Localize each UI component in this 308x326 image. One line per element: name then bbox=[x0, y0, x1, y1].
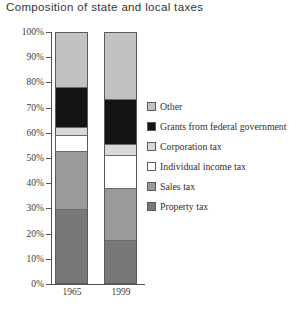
legend-item: Corporation tax bbox=[147, 136, 305, 156]
y-axis-tick-mark bbox=[46, 234, 51, 235]
legend-item: Property tax bbox=[147, 196, 305, 216]
y-axis-tick-label: 70% bbox=[27, 103, 44, 113]
y-axis-tick-mark bbox=[46, 133, 51, 134]
y-axis-tick-label: 0% bbox=[31, 279, 44, 289]
bar-segment bbox=[56, 33, 87, 87]
y-axis-tick-mark bbox=[46, 284, 51, 285]
y-axis-tick-label: 40% bbox=[27, 178, 44, 188]
y-axis-tick-label: 80% bbox=[27, 77, 44, 87]
y-axis-tick-label: 20% bbox=[27, 229, 44, 239]
y-axis-tick-label: 100% bbox=[22, 27, 44, 37]
y-axis-tick-label: 90% bbox=[27, 52, 44, 62]
legend-item-label: Sales tax bbox=[160, 181, 195, 192]
x-axis-label-1965: 1965 bbox=[50, 287, 94, 297]
legend-swatch-icon bbox=[147, 142, 156, 151]
legend-item: Grants from federal government bbox=[147, 116, 305, 136]
y-axis-tick-mark bbox=[46, 259, 51, 260]
chart-title: Composition of state and local taxes bbox=[6, 1, 203, 13]
bar-segment bbox=[56, 209, 87, 284]
stacked-bar-1965 bbox=[55, 32, 88, 284]
y-axis-line bbox=[51, 32, 52, 284]
legend-swatch-icon bbox=[147, 202, 156, 211]
legend-item: Sales tax bbox=[147, 176, 305, 196]
y-axis-tick-mark bbox=[46, 183, 51, 184]
bar-segment bbox=[56, 135, 87, 151]
y-axis-tick-mark bbox=[46, 82, 51, 83]
legend-item-label: Property tax bbox=[160, 201, 208, 212]
legend-swatch-icon bbox=[147, 162, 156, 171]
y-axis-tick-label: 10% bbox=[27, 254, 44, 264]
legend-swatch-icon bbox=[147, 122, 156, 131]
legend-item-label: Individual income tax bbox=[160, 161, 246, 172]
bar-segment bbox=[56, 127, 87, 135]
y-axis-tick-mark bbox=[46, 108, 51, 109]
y-axis-tick-mark bbox=[46, 32, 51, 33]
stacked-bar-1999 bbox=[104, 32, 137, 284]
x-axis-label-1999: 1999 bbox=[99, 287, 143, 297]
bar-segment bbox=[56, 151, 87, 208]
x-axis-line bbox=[51, 284, 145, 285]
legend-swatch-icon bbox=[147, 102, 156, 111]
legend-item: Individual income tax bbox=[147, 156, 305, 176]
legend-item-label: Other bbox=[160, 101, 182, 112]
chart-container: Composition of state and local taxes 0%1… bbox=[0, 0, 308, 326]
y-axis-tick-label: 50% bbox=[27, 153, 44, 163]
bar-segment bbox=[105, 155, 136, 188]
bar-segment bbox=[105, 240, 136, 283]
legend-item: Other bbox=[147, 96, 305, 116]
bar-segment bbox=[105, 144, 136, 155]
legend-item-label: Grants from federal government bbox=[160, 121, 287, 132]
legend-swatch-icon bbox=[147, 182, 156, 191]
bar-segment bbox=[105, 188, 136, 240]
y-axis-tick-label: 30% bbox=[27, 203, 44, 213]
y-axis-tick-mark bbox=[46, 57, 51, 58]
plot-area: 0%10%20%30%40%50%60%70%80%90%100% 1965 1… bbox=[51, 32, 145, 284]
bar-segment bbox=[105, 33, 136, 99]
y-axis-tick-mark bbox=[46, 208, 51, 209]
bar-segment bbox=[105, 99, 136, 144]
y-axis-tick-label: 60% bbox=[27, 128, 44, 138]
bar-segment bbox=[56, 87, 87, 127]
y-axis-tick-mark bbox=[46, 158, 51, 159]
legend-item-label: Corporation tax bbox=[160, 141, 222, 152]
chart-legend: OtherGrants from federal governmentCorpo… bbox=[147, 96, 305, 216]
